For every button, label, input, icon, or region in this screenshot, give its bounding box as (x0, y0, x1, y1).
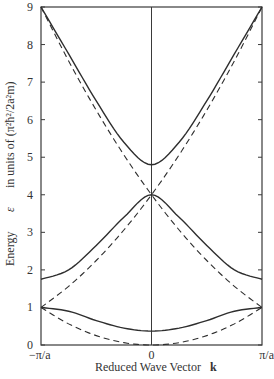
x-axis-label: Reduced Wave Vector k (95, 360, 217, 374)
y-axis-ticks: 0123456789 (27, 0, 262, 352)
y-tick-label: 1 (27, 300, 33, 314)
y-axis-label-units: in units of (π²ħ²/2a²m) (3, 81, 17, 188)
x-tick-label: π/a (259, 348, 274, 362)
y-axis-label-symbol: ε (3, 207, 17, 212)
y-tick-label: 5 (27, 150, 33, 164)
y-tick-label: 2 (27, 263, 33, 277)
y-tick-label: 3 (27, 225, 33, 239)
band-structure-chart: 0123456789 −π/a0π/a Energy ε in units of… (0, 0, 274, 379)
y-tick-label: 4 (27, 188, 33, 202)
plot-frame (41, 7, 262, 345)
y-tick-label: 8 (27, 38, 33, 52)
y-axis-label-energy: Energy (3, 232, 17, 266)
x-axis-label-symbol: k (210, 360, 217, 374)
y-tick-label: 6 (27, 113, 33, 127)
x-tick-label: −π/a (29, 348, 51, 362)
y-axis-label: Energy ε in units of (π²ħ²/2a²m) (3, 81, 17, 266)
y-tick-label: 9 (27, 0, 33, 14)
y-tick-label: 7 (27, 75, 33, 89)
x-axis-label-text: Reduced Wave Vector (95, 360, 201, 374)
